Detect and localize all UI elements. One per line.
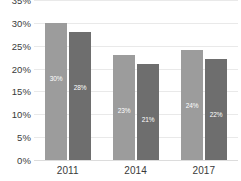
bar-chart: 35%30%25%20%15%10%5%0% 30%28%23%21%24%22…	[0, 0, 241, 181]
bar-group: 23%21%	[113, 0, 159, 160]
plot-area: 30%28%23%21%24%22%	[34, 0, 238, 160]
y-axis-tick-label: 30%	[12, 17, 31, 28]
y-axis-tick-label: 10%	[12, 109, 31, 120]
y-axis-tick-label: 15%	[12, 86, 31, 97]
y-axis-tick-label: 0%	[17, 155, 31, 166]
x-axis-tick-label: 2014	[124, 165, 147, 176]
bars-layer: 30%28%23%21%24%22%	[34, 0, 238, 160]
x-axis-tick-label: 2017	[193, 165, 216, 176]
bar[interactable]: 28%	[69, 32, 91, 160]
bar[interactable]: 30%	[45, 23, 67, 160]
bar-value-label: 22%	[210, 111, 223, 118]
bar-value-label: 28%	[74, 84, 87, 91]
bar[interactable]: 23%	[113, 55, 135, 160]
y-axis: 35%30%25%20%15%10%5%0%	[0, 0, 34, 160]
bar-group: 30%28%	[45, 0, 91, 160]
bar[interactable]: 24%	[181, 50, 203, 160]
x-axis-tick-label: 2011	[57, 165, 79, 176]
bar-value-label: 24%	[186, 102, 199, 109]
bar-value-label: 23%	[118, 107, 131, 114]
bar-group: 24%22%	[181, 0, 227, 160]
bar-value-label: 21%	[142, 116, 155, 123]
bar[interactable]: 21%	[137, 64, 159, 160]
bar[interactable]: 22%	[205, 59, 227, 160]
y-axis-tick-label: 20%	[12, 63, 31, 74]
bar-value-label: 30%	[50, 75, 63, 82]
y-axis-tick-label: 5%	[17, 132, 31, 143]
y-axis-tick-label: 35%	[12, 0, 31, 6]
x-axis: 201120142017	[34, 160, 238, 181]
y-axis-tick-label: 25%	[12, 40, 31, 51]
